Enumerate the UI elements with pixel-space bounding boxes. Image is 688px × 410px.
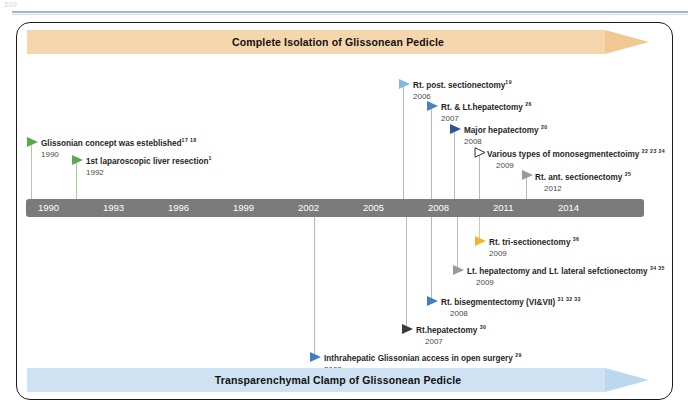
header-rule-gray <box>12 14 688 15</box>
event-1st-lap-resection: 1st laparoscopic liver resection1 1992 <box>86 153 212 178</box>
event-year: 2008 <box>450 309 581 319</box>
axis-tick: 2008 <box>428 202 449 213</box>
axis-tick: 2011 <box>493 202 513 213</box>
event-rt-hepatectomy: Rt.hepatectomy 30 2007 <box>416 322 486 347</box>
marker-rt-ant-sectionectomy[interactable] <box>522 170 533 180</box>
stem-rt-post-sectionectomy <box>403 85 404 199</box>
event-superscript: 20 <box>541 124 548 130</box>
marker-glissonian-concept[interactable] <box>27 137 38 147</box>
event-rt-bisegmentectomy: Rt. bisegmentectomy (VI&VII) 31 32 33 20… <box>441 294 581 319</box>
marker-inthrahepatic-access[interactable] <box>310 352 321 362</box>
stem-major-hepatectomy <box>454 130 455 199</box>
axis-tick: 1996 <box>168 202 189 213</box>
marker-rt-bisegmentectomy[interactable] <box>427 296 438 306</box>
event-title: 1st laparoscopic liver resection1 <box>86 153 212 167</box>
event-year: 2007 <box>425 337 486 347</box>
event-title: Rt. post. sectionectomy19 <box>413 77 512 91</box>
event-rt-ant-sectionectomy: Rt. ant. sectionectomy 25 2012 <box>535 169 631 194</box>
axis-tick: 2005 <box>363 202 384 213</box>
stem-monosegmentectomy <box>479 153 480 199</box>
timeline-axis: 1990 1993 1996 1999 2002 2005 2008 2011 … <box>26 199 644 217</box>
axis-tick: 1999 <box>233 202 254 213</box>
stem-inthrahepatic-access <box>314 217 315 356</box>
marker-rt-lt-hepatectomy[interactable] <box>427 101 438 111</box>
top-banner-arrowhead-icon <box>605 30 649 54</box>
event-superscript: 29 <box>515 352 522 358</box>
event-title: Glissonian concept was esteblished17 18 <box>41 135 197 149</box>
bottom-banner: Transparenchymal Clamp of Glissonean Ped… <box>27 368 649 392</box>
marker-rt-post-sectionectomy[interactable] <box>399 79 410 89</box>
event-title: Rt. ant. sectionectomy 25 <box>535 169 631 183</box>
event-title: Lt. hepatectomy and Lt. lateral sefction… <box>467 263 665 277</box>
event-superscript: 31 32 33 <box>557 296 580 302</box>
event-year: 2012 <box>544 184 631 194</box>
page-folio: 200 <box>4 1 17 8</box>
event-rt-tri-sectionectomy: Rt. tri-sectionectomy 36 2009 <box>489 234 579 259</box>
stem-rt-hepatectomy <box>406 217 407 328</box>
event-superscript: 22 23 24 <box>642 148 665 154</box>
top-banner-label: Complete Isolation of Glissonean Pedicle <box>232 36 444 48</box>
header-rule-blue <box>12 11 688 13</box>
event-title: Rt. tri-sectionectomy 36 <box>489 234 579 248</box>
event-year: 2009 <box>476 278 665 288</box>
marker-monosegmentectomy[interactable] <box>474 147 486 158</box>
bottom-banner-arrowhead-icon <box>605 368 649 392</box>
stem-lt-hepatectomy-lateral <box>457 217 458 269</box>
stem-glissonian-concept <box>31 143 32 199</box>
stem-1st-lap-resection <box>76 161 77 199</box>
event-superscript: 30 <box>480 324 487 330</box>
event-superscript: 17 18 <box>182 137 197 143</box>
event-major-hepatectomy: Major hepatectomy 20 2008 <box>464 122 547 147</box>
event-superscript: 34 35 <box>650 265 665 271</box>
event-year: 1992 <box>86 168 212 178</box>
axis-tick: 1990 <box>38 202 59 213</box>
top-banner: Complete Isolation of Glissonean Pedicle <box>27 30 649 54</box>
event-year: 2009 <box>489 249 579 259</box>
marker-rt-tri-sectionectomy[interactable] <box>475 236 486 246</box>
event-title: Various types of monosegmentectoimy 22 2… <box>487 146 665 160</box>
stem-rt-lt-hepatectomy <box>431 107 432 199</box>
bottom-banner-label: Transparenchymal Clamp of Glissonean Ped… <box>215 374 461 386</box>
event-superscript: 25 <box>625 171 632 177</box>
event-superscript: 36 <box>573 236 580 242</box>
event-title: Inthrahepatic Glissonian access in open … <box>324 350 522 364</box>
event-title: Rt.hepatectomy 30 <box>416 322 486 336</box>
event-superscript: 1 <box>208 155 211 161</box>
event-monosegmentectomy: Various types of monosegmentectoimy 22 2… <box>487 146 665 171</box>
event-title: Major hepatectomy 20 <box>464 122 547 136</box>
axis-tick: 2014 <box>558 202 579 213</box>
axis-tick: 2002 <box>298 202 319 213</box>
marker-rt-hepatectomy[interactable] <box>402 324 413 334</box>
event-superscript: 26 <box>525 101 532 107</box>
marker-major-hepatectomy[interactable] <box>450 124 461 134</box>
event-superscript: 19 <box>505 79 512 85</box>
marker-1st-lap-resection[interactable] <box>72 155 83 165</box>
timeline-figure: Complete Isolation of Glissonean Pedicle… <box>16 22 673 400</box>
event-rt-lt-hepatectomy: Rt. & Lt.hepatectomy 26 2007 <box>441 99 532 124</box>
marker-lt-hepatectomy-lateral[interactable] <box>453 265 464 275</box>
event-lt-hepatectomy-lateral: Lt. hepatectomy and Lt. lateral sefction… <box>467 263 665 288</box>
event-title: Rt. & Lt.hepatectomy 26 <box>441 99 532 113</box>
stem-rt-bisegmentectomy <box>431 217 432 300</box>
axis-tick: 1993 <box>103 202 124 213</box>
event-title: Rt. bisegmentectomy (VI&VII) 31 32 33 <box>441 294 581 308</box>
